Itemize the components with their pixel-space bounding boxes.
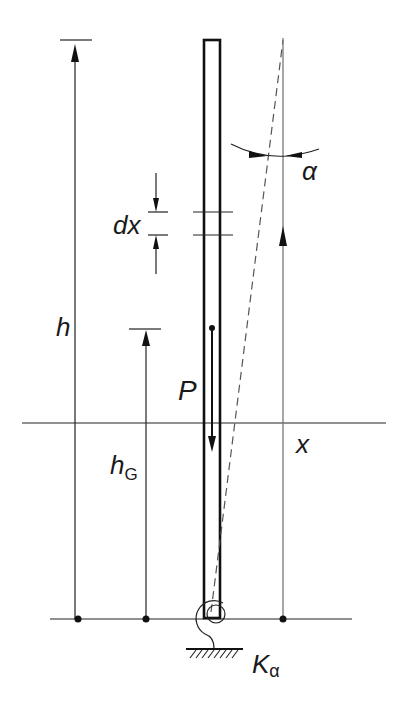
h-arrowhead: [71, 44, 79, 62]
alpha-arrowhead-right: [285, 152, 302, 158]
hg-base-dot: [143, 616, 150, 623]
label-hg-main: h: [110, 450, 124, 480]
label-p: P: [178, 375, 197, 406]
label-k-alpha: Kα: [252, 649, 280, 681]
diagram-canvas: h hG dx P x α Kα: [0, 0, 400, 711]
label-alpha: α: [302, 156, 318, 186]
label-x: x: [294, 429, 310, 459]
load-arrowhead: [208, 436, 216, 452]
label-hg: hG: [110, 450, 138, 484]
label-k-main: K: [252, 649, 271, 679]
dx-arrowhead-top: [153, 198, 159, 212]
label-k-sub: α: [269, 661, 279, 681]
hg-arrowhead: [142, 330, 150, 346]
spring-inner-circle: [207, 605, 225, 623]
deflected-axis-dashed: [211, 40, 283, 612]
diagram-svg: h hG dx P x α Kα: [0, 0, 400, 711]
dx-arrowhead-bottom: [153, 235, 159, 249]
label-h: h: [56, 312, 70, 342]
x-base-dot: [280, 616, 287, 623]
label-dx: dx: [113, 210, 141, 240]
x-arrowhead: [279, 226, 287, 246]
ground-hatching: [190, 650, 238, 658]
label-hg-sub: G: [124, 465, 137, 484]
h-base-dot: [75, 616, 82, 623]
alpha-arc: [231, 144, 319, 156]
